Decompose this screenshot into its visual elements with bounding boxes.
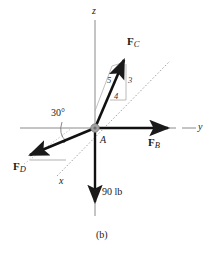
point-label-a: A [100,135,106,145]
node-a [91,124,99,132]
angle-label-30deg: 30° [51,108,65,118]
force-label-fc: FC [127,36,139,48]
axis-x [57,61,170,176]
force-label-fb: FB [148,137,160,149]
force-label-fb-symbol: F [148,136,155,148]
slope-label-hypotenuse: 5 [107,76,111,85]
force-label-fc-symbol: F [127,35,134,47]
axis-label-y: y [198,122,202,132]
free-body-diagram: z y x FC FB FD A 30° 5 3 4 90 lb (b) [0,0,218,253]
angle-reference-helper [24,128,72,164]
vector-fd [30,128,95,155]
slope-label-horizontal: 4 [114,92,118,101]
force-label-fd: FD [13,161,26,173]
figure-caption: (b) [96,230,108,240]
diagram-canvas [0,0,218,253]
force-label-fd-subscript: D [20,164,26,174]
axis-label-x: x [59,176,63,186]
slope-label-vertical: 3 [128,76,132,85]
vector-fc [95,60,124,128]
force-label-fb-subscript: B [155,140,160,150]
force-label-fd-symbol: F [13,160,20,172]
axis-label-z: z [92,6,96,16]
slope-triangle-construction [95,63,126,111]
weight-label: 90 lb [102,187,122,197]
force-label-fc-subscript: C [134,39,140,49]
